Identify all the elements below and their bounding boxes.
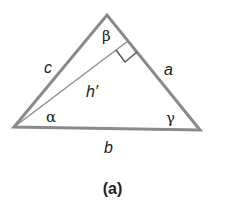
angle-gamma-label: γ [166,111,175,126]
right-angle-marker [116,50,137,62]
angle-alpha-label: α [46,110,56,125]
side-a-label: a [164,62,173,78]
altitude-line [14,41,128,127]
side-b-label: b [104,140,113,156]
angle-beta-label: β [102,29,111,44]
triangle-diagram [0,0,225,207]
altitude-label: h′ [86,84,98,100]
figure-caption: (a) [0,180,225,198]
side-c-label: c [44,60,52,76]
